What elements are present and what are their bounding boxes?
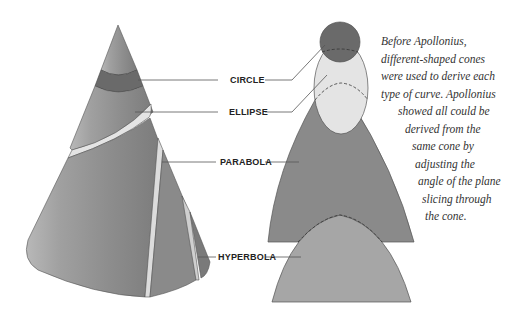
label-parabola: PARABOLA xyxy=(220,157,272,167)
caption-line: type of curve. Apollonius xyxy=(381,86,501,104)
caption-line: derived from the xyxy=(405,121,501,139)
cone-tip xyxy=(101,25,137,75)
caption-line: slicing through xyxy=(422,191,501,209)
circle-shape xyxy=(320,22,360,62)
label-ellipse: ELLIPSE xyxy=(229,107,268,117)
caption-line: different-shaped cones xyxy=(381,51,501,69)
sliced-cone xyxy=(26,25,210,297)
caption-line: same cone by xyxy=(412,138,501,156)
caption-line: the cone. xyxy=(425,208,501,226)
caption-line: were used to derive each xyxy=(381,68,501,86)
label-circle: CIRCLE xyxy=(230,75,265,85)
caption-line: showed all could be xyxy=(398,103,501,121)
caption-line: angle of the plane xyxy=(418,173,501,191)
label-hyperbola: HYPERBOLA xyxy=(218,252,276,262)
caption-line: adjusting the xyxy=(415,156,501,174)
explanatory-caption: Before Apollonius, different-shaped cone… xyxy=(381,33,501,226)
caption-line: Before Apollonius, xyxy=(381,33,501,51)
